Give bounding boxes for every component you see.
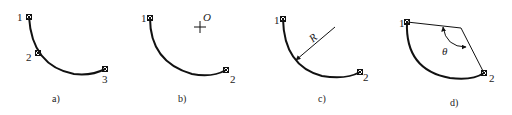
caption-d: d): [450, 97, 458, 109]
point-label-1: 1: [17, 11, 23, 23]
radius-label-r: R: [306, 31, 320, 45]
chord-line-2: [461, 28, 484, 73]
radius-dimension-line: [296, 27, 335, 60]
arc-construction-figure: 1 2 3 a) O 1 2 b) R: [0, 0, 512, 115]
point-label-1: 1: [141, 12, 147, 24]
point-label-3: 3: [102, 73, 108, 85]
point-label-2: 2: [363, 71, 369, 83]
panel-a: 1 2 3 a): [17, 11, 108, 105]
panel-b: O 1 2 b): [141, 11, 236, 105]
angle-label-theta: θ: [442, 45, 448, 57]
point-label-2: 2: [26, 51, 32, 63]
caption-c: c): [318, 93, 326, 105]
point-label-1: 1: [399, 17, 405, 29]
caption-a: a): [52, 93, 60, 105]
panel-d: θ 1 2 d): [399, 17, 495, 109]
chord-line-1: [407, 22, 461, 28]
caption-b: b): [178, 93, 186, 105]
panel-c: R 1 2 c): [274, 14, 369, 105]
arc-radius-based: [283, 19, 360, 77]
point-label-1: 1: [274, 14, 280, 26]
center-label-o: O: [203, 11, 211, 23]
point-label-2: 2: [489, 72, 495, 84]
arc-three-point: [29, 17, 105, 74]
arc-center-based: [150, 18, 226, 75]
point-label-2: 2: [230, 73, 236, 85]
